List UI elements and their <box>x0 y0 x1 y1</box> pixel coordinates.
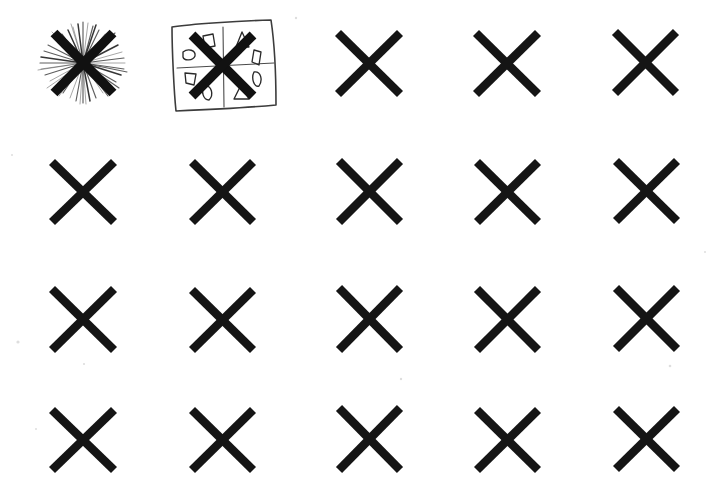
x-mark-icon <box>338 33 400 94</box>
cell-r2c4-x <box>477 162 538 222</box>
cell-r1c3-x <box>338 33 400 94</box>
x-mark-icon <box>52 289 114 350</box>
x-mark-icon <box>616 409 677 469</box>
x-mark-icon <box>615 32 676 93</box>
cell-r2c1-x <box>52 162 114 222</box>
cell-r1c1-x-starburst <box>38 22 127 104</box>
cell-r2c5-x <box>616 161 677 221</box>
cell-r4c5-x <box>616 409 677 469</box>
x-mark-icon <box>339 408 400 470</box>
x-mark-icon <box>339 288 400 350</box>
cell-r1c4-x <box>476 33 538 94</box>
x-mark-icon <box>477 410 538 470</box>
cell-r1c2-x-in-box <box>172 20 276 111</box>
x-mark-icon <box>476 33 538 94</box>
drawing-sheet <box>0 0 726 489</box>
x-mark-icon <box>192 162 253 222</box>
oval-shape-icon <box>183 50 195 60</box>
cell-r4c3-x <box>339 408 400 470</box>
ink-layer <box>0 0 726 489</box>
cell-r3c2-x <box>192 290 253 350</box>
quadrilateral-shape-icon <box>252 50 261 65</box>
x-mark-icon <box>339 161 400 222</box>
quadrilateral-shape-icon <box>185 73 196 85</box>
x-mark-icon <box>52 162 114 222</box>
cell-r3c5-x <box>616 288 677 349</box>
cell-r3c4-x <box>477 289 538 350</box>
x-mark-icon <box>477 162 538 222</box>
cell-r3c1-x <box>52 289 114 350</box>
cell-r4c4-x <box>477 410 538 470</box>
oval-shape-icon <box>253 72 261 86</box>
x-mark-icon <box>192 290 253 350</box>
x-mark-icon <box>616 288 677 349</box>
x-mark-icon <box>192 35 253 96</box>
x-mark-icon <box>192 410 253 470</box>
cell-r3c3-x <box>339 288 400 350</box>
cell-r4c1-x <box>52 410 114 470</box>
cell-r4c2-x <box>192 410 253 470</box>
cell-r1c5-x <box>615 32 676 93</box>
x-mark-icon <box>52 410 114 470</box>
x-mark-icon <box>616 161 677 221</box>
cell-r2c2-x <box>192 162 253 222</box>
cell-r2c3-x <box>339 161 400 222</box>
x-mark-icon <box>477 289 538 350</box>
